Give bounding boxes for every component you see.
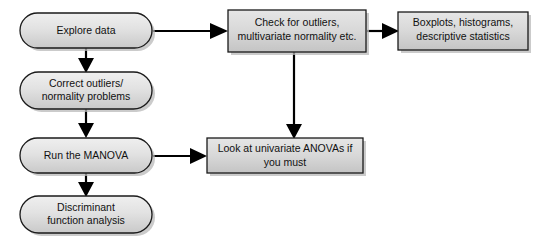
node-label-discriminant-line1: Discriminant — [57, 201, 115, 213]
node-check-outliers[interactable]: Check for outliers, multivariate normali… — [228, 10, 369, 55]
edge-manova-to-discriminant — [78, 173, 94, 197]
node-discriminant-function-analysis[interactable]: Discriminant function analysis — [20, 196, 155, 236]
edge-manova-to-anovas — [153, 148, 207, 164]
node-label-boxplots-line2: descriptive statistics — [416, 30, 509, 42]
node-run-manova[interactable]: Run the MANOVA — [20, 138, 155, 176]
edge-explore-to-check — [153, 23, 228, 39]
node-label-run-manova: Run the MANOVA — [44, 149, 128, 161]
node-univariate-anovas[interactable]: Look at univariate ANOVAs if you must — [207, 138, 366, 176]
flowchart-diagram: Explore data Correct outliers/ normality… — [0, 0, 541, 249]
node-correct-outliers[interactable]: Correct outliers/ normality problems — [20, 72, 155, 112]
node-label-discriminant-line2: function analysis — [47, 214, 125, 226]
node-label-boxplots-line1: Boxplots, histograms, — [413, 16, 513, 28]
edge-check-to-anovas — [286, 52, 302, 139]
node-label-check-outliers-line2: multivariate normality etc. — [237, 30, 356, 42]
node-label-check-outliers-line1: Check for outliers, — [255, 16, 340, 28]
node-label-correct-outliers-line2: normality problems — [42, 90, 131, 102]
edge-explore-to-correct — [78, 48, 94, 73]
node-label-explore-data: Explore data — [57, 24, 116, 36]
node-boxplots-histograms[interactable]: Boxplots, histograms, descriptive statis… — [398, 12, 531, 53]
edge-correct-to-manova — [78, 109, 94, 138]
node-label-correct-outliers-line1: Correct outliers/ — [49, 77, 123, 89]
flowchart-canvas: Explore data Correct outliers/ normality… — [0, 0, 541, 249]
node-label-univariate-anovas-line1: Look at univariate ANOVAs if — [218, 142, 353, 154]
edge-check-to-boxplots — [367, 23, 399, 39]
nodes-layer: Explore data Correct outliers/ normality… — [20, 10, 531, 236]
node-explore-data[interactable]: Explore data — [20, 13, 155, 51]
node-label-univariate-anovas-line2: you must — [264, 156, 307, 168]
